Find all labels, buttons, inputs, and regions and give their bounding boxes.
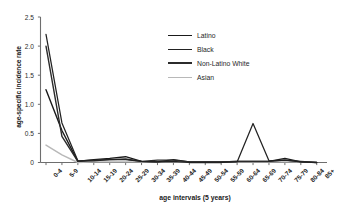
series-line-latino <box>46 90 317 163</box>
plot-area <box>0 0 340 214</box>
chart-figure: age-specific incidence rate age interval… <box>0 0 340 214</box>
series-line-non-latino-white <box>46 46 317 162</box>
series-line-black <box>46 34 317 162</box>
